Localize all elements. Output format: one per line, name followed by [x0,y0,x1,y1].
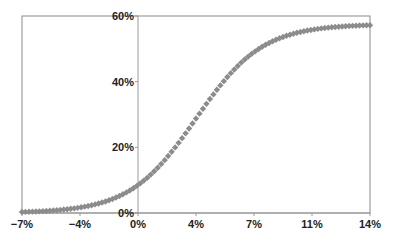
plot-frame [22,16,370,213]
x-tick-label: 7% [246,218,262,230]
diamond-marker [203,101,209,107]
diamond-marker [196,110,202,116]
diamond-marker [172,144,178,150]
diamond-marker [168,149,174,155]
x-tick-label: −7% [11,218,34,230]
x-tick-label: 11% [301,218,323,230]
diamond-marker [214,87,220,93]
diamond-marker [175,140,181,146]
plot-border [22,16,370,213]
y-tick-label: 60% [112,10,134,22]
x-tick-label: 0% [130,218,146,230]
diamond-marker [182,130,188,136]
sigmoid-chart: 0%20%40%60%−7%−4%0%4%7%11%14% [0,0,394,240]
diamond-marker [367,22,373,28]
diamond-marker [217,82,223,88]
diamond-marker [186,125,192,131]
y-tick-label: 40% [112,76,134,88]
x-tick-label: 14% [359,218,381,230]
x-tick-label: −4% [69,218,92,230]
x-tick-label: 4% [188,218,204,230]
diamond-marker [200,106,206,112]
y-tick-label: 20% [112,141,134,153]
data-series [19,22,373,215]
diamond-marker [207,96,213,102]
diamond-marker [193,115,199,121]
diamond-marker [210,91,216,97]
diamond-marker [179,135,185,141]
diamond-marker [189,120,195,126]
